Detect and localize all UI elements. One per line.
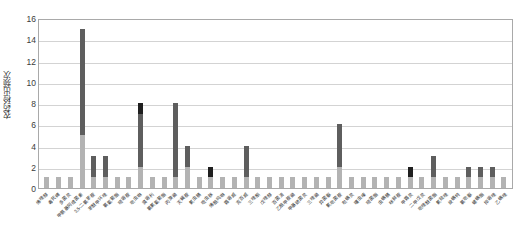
bar-segment-0 <box>126 177 131 188</box>
bar-segment-0 <box>232 177 237 188</box>
bar-stack[interactable] <box>68 177 73 188</box>
bar-segment-1 <box>337 124 342 167</box>
bar-segment-1 <box>103 156 108 177</box>
bar-segment-0 <box>279 177 284 188</box>
bar-segment-0 <box>255 177 260 188</box>
bar-stack[interactable] <box>56 177 61 188</box>
bar-stack[interactable] <box>302 177 307 188</box>
bar-segment-0 <box>466 177 471 188</box>
bar-stack[interactable] <box>126 177 131 188</box>
bar-stack[interactable] <box>185 146 190 189</box>
bar-stack[interactable] <box>232 177 237 188</box>
bar-slot <box>240 20 252 188</box>
y-axis-tick-4: 4 <box>16 142 36 151</box>
bar-slot <box>275 20 287 188</box>
bar-segment-0 <box>103 177 108 188</box>
bar-stack[interactable] <box>361 177 366 188</box>
bar-stack[interactable] <box>91 156 96 188</box>
bar-segment-0 <box>396 177 401 188</box>
bar-stack[interactable] <box>431 156 436 188</box>
bar-stack[interactable] <box>115 177 120 188</box>
bar-stack[interactable] <box>419 177 424 188</box>
bar-segment-0 <box>115 177 120 188</box>
bar-slot <box>123 20 135 188</box>
bar-segment-0 <box>349 177 354 188</box>
bar-stack[interactable] <box>408 167 413 188</box>
bar-slot <box>439 20 451 188</box>
bar-stack[interactable] <box>208 167 213 188</box>
bar-slot <box>287 20 299 188</box>
y-axis-tick-2: 2 <box>16 164 36 173</box>
y-axis-title: 农药检出频次 <box>1 40 17 150</box>
bar-slot <box>252 20 264 188</box>
bar-slot <box>217 20 229 188</box>
bar-segment-0 <box>138 167 143 188</box>
bar-slot <box>369 20 381 188</box>
bar-segment-0 <box>244 177 249 188</box>
bar-segment-1 <box>244 146 249 178</box>
x-axis-tick-labels: 烯唑醇毒死蜱多菌灵甲氨基阿维菌素3,5-二氯苯胺苯醚甲环唑氯氰菊酯嘧霉胺吡虫啉腐… <box>38 190 513 245</box>
bar-slot <box>404 20 416 188</box>
bar-slot <box>53 20 65 188</box>
bar-stack[interactable] <box>455 177 460 188</box>
bar-stack[interactable] <box>220 177 225 188</box>
bar-segment-1 <box>490 167 495 178</box>
bar-stack[interactable] <box>314 177 319 188</box>
bar-slot <box>498 20 510 188</box>
bar-segment-0 <box>478 177 483 188</box>
bar-stack[interactable] <box>337 124 342 188</box>
bar-slot <box>311 20 323 188</box>
bar-stack[interactable] <box>501 177 506 188</box>
bar-series-group <box>39 20 512 188</box>
bar-slot <box>428 20 440 188</box>
bar-slot <box>205 20 217 188</box>
bar-slot <box>100 20 112 188</box>
bar-segment-1 <box>173 103 178 177</box>
bar-stack[interactable] <box>396 177 401 188</box>
bar-stack[interactable] <box>244 146 249 189</box>
bar-segment-0 <box>302 177 307 188</box>
bar-segment-0 <box>501 177 506 188</box>
y-axis-tick-0: 0 <box>16 185 36 194</box>
y-axis-tick-10: 10 <box>16 79 36 88</box>
bar-stack[interactable] <box>326 177 331 188</box>
bar-slot <box>88 20 100 188</box>
bar-stack[interactable] <box>290 177 295 188</box>
bar-segment-0 <box>185 167 190 188</box>
bar-stack[interactable] <box>44 177 49 188</box>
bar-stack[interactable] <box>372 177 377 188</box>
bar-stack[interactable] <box>466 167 471 188</box>
bar-slot <box>393 20 405 188</box>
bar-stack[interactable] <box>138 103 143 188</box>
bar-segment-1 <box>91 156 96 177</box>
bar-stack[interactable] <box>490 167 495 188</box>
bar-stack[interactable] <box>267 177 272 188</box>
bar-slot <box>486 20 498 188</box>
bar-slot <box>451 20 463 188</box>
bar-stack[interactable] <box>197 177 202 188</box>
bar-stack[interactable] <box>443 177 448 188</box>
bar-stack[interactable] <box>349 177 354 188</box>
bar-stack[interactable] <box>255 177 260 188</box>
bar-segment-0 <box>384 177 389 188</box>
bar-stack[interactable] <box>173 103 178 188</box>
y-axis-tick-12: 12 <box>16 57 36 66</box>
bar-segment-1 <box>431 156 436 177</box>
bar-segment-0 <box>91 177 96 188</box>
bar-slot <box>158 20 170 188</box>
bar-segment-0 <box>150 177 155 188</box>
bar-segment-2 <box>408 167 413 178</box>
bar-segment-0 <box>162 177 167 188</box>
bar-slot <box>334 20 346 188</box>
bar-stack[interactable] <box>162 177 167 188</box>
bar-slot <box>76 20 88 188</box>
bar-stack[interactable] <box>279 177 284 188</box>
bar-segment-0 <box>197 177 202 188</box>
bar-stack[interactable] <box>80 29 85 188</box>
bar-slot <box>381 20 393 188</box>
bar-stack[interactable] <box>384 177 389 188</box>
bar-stack[interactable] <box>150 177 155 188</box>
bar-stack[interactable] <box>103 156 108 188</box>
bar-stack[interactable] <box>478 167 483 188</box>
pesticide-detection-bar-chart: 农药检出频次 0246810121416 烯唑醇毒死蜱多菌灵甲氨基阿维菌素3,5… <box>0 0 530 245</box>
